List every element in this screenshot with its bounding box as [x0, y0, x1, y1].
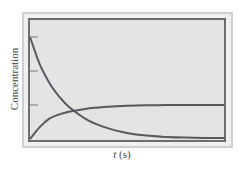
y-axis-label: Concentration [8, 39, 20, 119]
chart [0, 0, 244, 171]
x-axis-label: t (s) [102, 148, 142, 160]
plot-area [29, 19, 225, 141]
